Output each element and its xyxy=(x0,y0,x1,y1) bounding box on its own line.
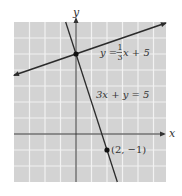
x-axis-label: x xyxy=(169,127,176,140)
line1-label-numerator: 1 xyxy=(118,43,123,52)
data-point xyxy=(104,147,109,152)
line2-label: 3x + y = 5 xyxy=(96,89,150,100)
line1-label-rhs: x + 5 xyxy=(123,47,150,58)
point-label: (2, −1) xyxy=(111,144,146,155)
line1-label-lhs: y = xyxy=(99,47,117,58)
line1-label-denominator: 3 xyxy=(118,53,123,62)
y-axis-label: y xyxy=(72,6,80,19)
chart: y x y = 1 3 x + 5 3x + y = 5 (2, −1) xyxy=(0,0,182,196)
data-point xyxy=(73,51,78,56)
